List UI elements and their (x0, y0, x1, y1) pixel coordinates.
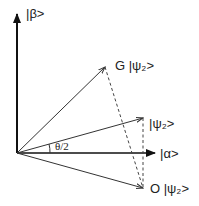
g-psi2-label: G |ψ₂> (115, 59, 154, 72)
angle-arc (49, 144, 50, 153)
alpha-axis-label: |α> (160, 147, 178, 160)
psi2-vector (17, 118, 143, 153)
o-psi2-label: O |ψ₂> (150, 182, 189, 195)
psi2-label: |ψ₂> (149, 117, 174, 130)
dashed-g-to-o (105, 67, 143, 188)
vector-diagram (0, 0, 199, 206)
o-psi2-vector (17, 153, 143, 188)
angle-label: θ/2 (55, 141, 69, 152)
beta-axis-label: |β> (26, 7, 44, 20)
